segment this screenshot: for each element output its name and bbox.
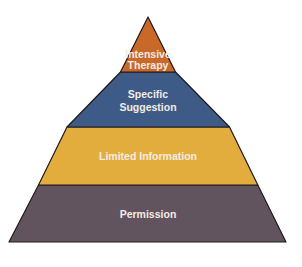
layer-permission-label: Permission xyxy=(120,208,177,220)
layer-intensive-therapy-label-line2: Therapy xyxy=(128,59,169,71)
layer-permission: Permission xyxy=(9,185,286,242)
pyramid-diagram: Permission Limited Information Specific … xyxy=(0,0,302,267)
layer-specific-suggestion: Specific Suggestion xyxy=(67,72,230,127)
layer-intensive-therapy: Intensive Therapy xyxy=(121,17,176,72)
layer-specific-suggestion-label-line2: Suggestion xyxy=(119,101,176,113)
layer-limited-information-label: Limited Information xyxy=(99,150,197,162)
layer-limited-information: Limited Information xyxy=(39,127,258,185)
layer-specific-suggestion-label-line1: Specific xyxy=(128,88,168,100)
